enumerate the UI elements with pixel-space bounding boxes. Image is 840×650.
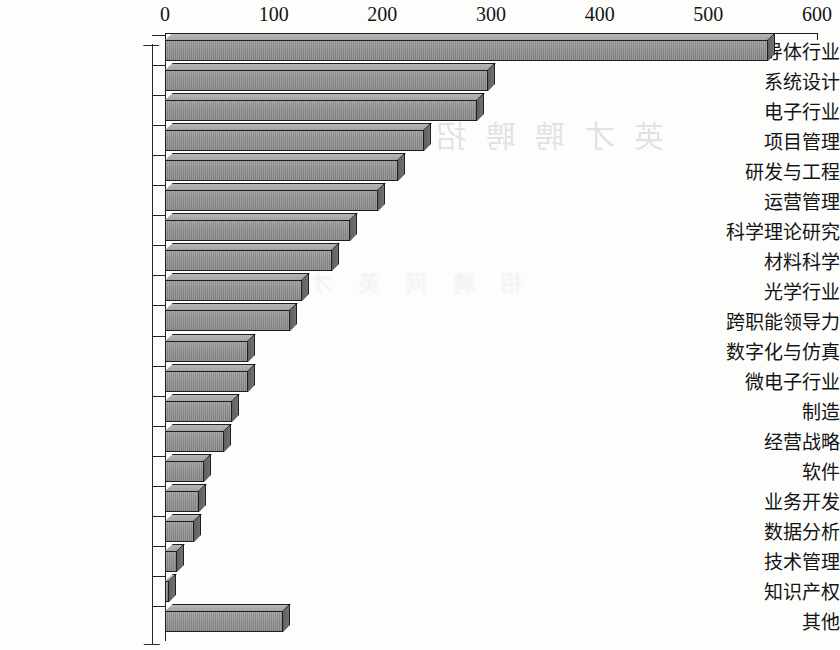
bar-top-face	[165, 33, 776, 40]
category-label-8: 光学行业	[692, 283, 840, 302]
y-tick-10	[152, 336, 165, 337]
x-tick-label-200: 200	[367, 4, 397, 24]
category-label-16: 数据分析	[692, 523, 840, 542]
bar-side-face	[768, 33, 775, 61]
category-label-10: 数字化与仿真	[692, 343, 840, 362]
y-tick-19	[152, 606, 165, 607]
bar-top-face	[165, 424, 231, 431]
bar-front-face	[165, 521, 194, 542]
bar-side-face	[290, 303, 297, 331]
bar-front-face	[165, 40, 768, 61]
y-tick-0	[152, 35, 165, 36]
category-label-12: 制造	[692, 403, 840, 422]
bar-side-face	[477, 93, 484, 121]
bar-top-face	[165, 273, 310, 280]
category-label-15: 业务开发	[692, 493, 840, 512]
bar-front-face	[165, 70, 488, 91]
y-tick-13	[152, 426, 165, 427]
bar-front-face	[165, 341, 248, 362]
category-label-14: 软件	[692, 463, 840, 482]
bar-top-face	[165, 303, 298, 310]
bar-front-face	[165, 190, 378, 211]
category-label-19: 其他	[692, 613, 840, 632]
y-tick-18	[152, 576, 165, 577]
bar-front-face	[165, 130, 424, 151]
bar-front-face	[165, 581, 169, 602]
bar-top-face	[165, 604, 291, 611]
category-label-2: 电子行业	[692, 103, 840, 122]
bar-top-face	[165, 243, 340, 250]
bar-front-face	[165, 220, 350, 241]
bar-front-face	[165, 371, 248, 392]
bar-top-face	[165, 334, 255, 341]
bar-front-face	[165, 250, 332, 271]
bar-top-face	[165, 153, 405, 160]
x-tick-label-600: 600	[802, 4, 832, 24]
x-tick-label-0: 0	[160, 4, 170, 24]
bar-front-face	[165, 310, 290, 331]
y-tick-16	[152, 516, 165, 517]
bar	[165, 611, 290, 639]
bar-side-face	[302, 273, 309, 301]
bar-front-face	[165, 551, 177, 572]
bar-side-face	[169, 574, 176, 602]
y-tick-9	[152, 305, 165, 306]
bar-front-face	[165, 431, 224, 452]
x-tick-label-300: 300	[476, 4, 506, 24]
category-label-5: 运营管理	[692, 193, 840, 212]
category-label-11: 微电子行业	[692, 373, 840, 392]
bar-front-face	[165, 401, 232, 422]
category-label-18: 知识产权	[692, 583, 840, 602]
bar-chart: 英 才 聘 聘 招 招 聘 网 英 才 0100200300400500600 …	[0, 0, 840, 650]
category-label-6: 科学理论研究	[692, 223, 840, 242]
bar-top-face	[165, 63, 496, 70]
y-tick-12	[152, 396, 165, 397]
bar-side-face	[194, 514, 201, 542]
bar-front-face	[165, 611, 283, 632]
y-tick-11	[152, 366, 165, 367]
bar-top-face	[165, 213, 357, 220]
x-tick-label-100: 100	[259, 4, 289, 24]
y-tick-8	[152, 275, 165, 276]
y-tick-1	[152, 65, 165, 66]
y-tick-4	[152, 155, 165, 156]
x-tick-600	[817, 33, 818, 40]
y-tick-15	[152, 486, 165, 487]
category-label-9: 跨职能领导力	[692, 313, 840, 332]
bar-top-face	[165, 123, 431, 130]
bar-top-face	[165, 93, 485, 100]
bar-top-face	[165, 183, 386, 190]
bar-top-face	[165, 364, 255, 371]
bar-front-face	[165, 100, 477, 121]
category-label-4: 研发与工程	[692, 163, 840, 182]
bar-front-face	[165, 160, 398, 181]
y-tick-7	[152, 245, 165, 246]
bar-top-face	[165, 394, 240, 401]
x-tick-label-500: 500	[693, 4, 723, 24]
y-tick-2	[152, 95, 165, 96]
y-axis-back-line	[152, 44, 153, 644]
category-label-7: 材料科学	[692, 253, 840, 272]
bar-side-face	[332, 243, 339, 271]
category-label-17: 技术管理	[692, 553, 840, 572]
bar-side-face	[378, 183, 385, 211]
y-tick-5	[152, 185, 165, 186]
y-tick-17	[152, 546, 165, 547]
y-tick-6	[152, 215, 165, 216]
y-tick-3	[152, 125, 165, 126]
bar-side-face	[283, 604, 290, 632]
category-label-1: 系统设计	[692, 73, 840, 92]
category-label-3: 项目管理	[692, 133, 840, 152]
bar-side-face	[232, 393, 239, 421]
category-label-13: 经营战略	[692, 433, 840, 452]
bar-front-face	[165, 491, 199, 512]
y-tick-14	[152, 456, 165, 457]
bar-front-face	[165, 280, 302, 301]
x-tick-label-400: 400	[585, 4, 615, 24]
bar-front-face	[165, 461, 204, 482]
bar-side-face	[350, 213, 357, 241]
